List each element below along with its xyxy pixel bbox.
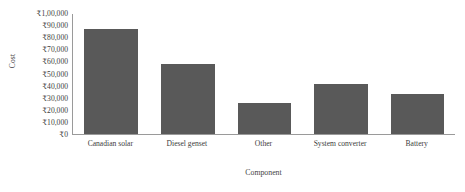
x-axis-title: Component — [72, 168, 455, 177]
y-tick-label: ₹40,000 — [22, 83, 68, 91]
y-tick-label: ₹70,000 — [22, 46, 68, 54]
x-tick-label: Other — [225, 139, 302, 149]
y-tick-label: ₹1,00,000 — [22, 10, 68, 18]
y-tick-label: ₹90,000 — [22, 22, 68, 30]
bar — [84, 29, 138, 134]
x-tick-label: Diesel genset — [149, 139, 226, 149]
y-axis-title: Cost — [8, 38, 22, 84]
bar-chart-figure: Cost ₹0₹10,000₹20,000₹30,000₹40,000₹50,0… — [0, 0, 465, 192]
plot-area — [72, 14, 455, 135]
y-axis-tick-labels: ₹0₹10,000₹20,000₹30,000₹40,000₹50,000₹60… — [22, 9, 68, 137]
bar — [161, 64, 215, 134]
x-tick-label: Battery — [378, 139, 455, 149]
bar — [238, 103, 292, 134]
bar — [314, 84, 368, 134]
y-tick-label: ₹30,000 — [22, 95, 68, 103]
bars-layer — [73, 14, 455, 134]
y-tick-label: ₹20,000 — [22, 107, 68, 115]
y-tick-label: ₹50,000 — [22, 71, 68, 79]
x-axis-tick-labels: Canadian solarDiesel gensetOtherSystem c… — [72, 139, 455, 153]
x-tick-label: Canadian solar — [72, 139, 149, 149]
y-tick-label: ₹0 — [22, 131, 68, 139]
bar — [391, 94, 445, 134]
y-tick-label: ₹10,000 — [22, 119, 68, 127]
y-tick-label: ₹60,000 — [22, 58, 68, 66]
x-tick-label: System converter — [302, 139, 379, 149]
y-tick-label: ₹80,000 — [22, 34, 68, 42]
